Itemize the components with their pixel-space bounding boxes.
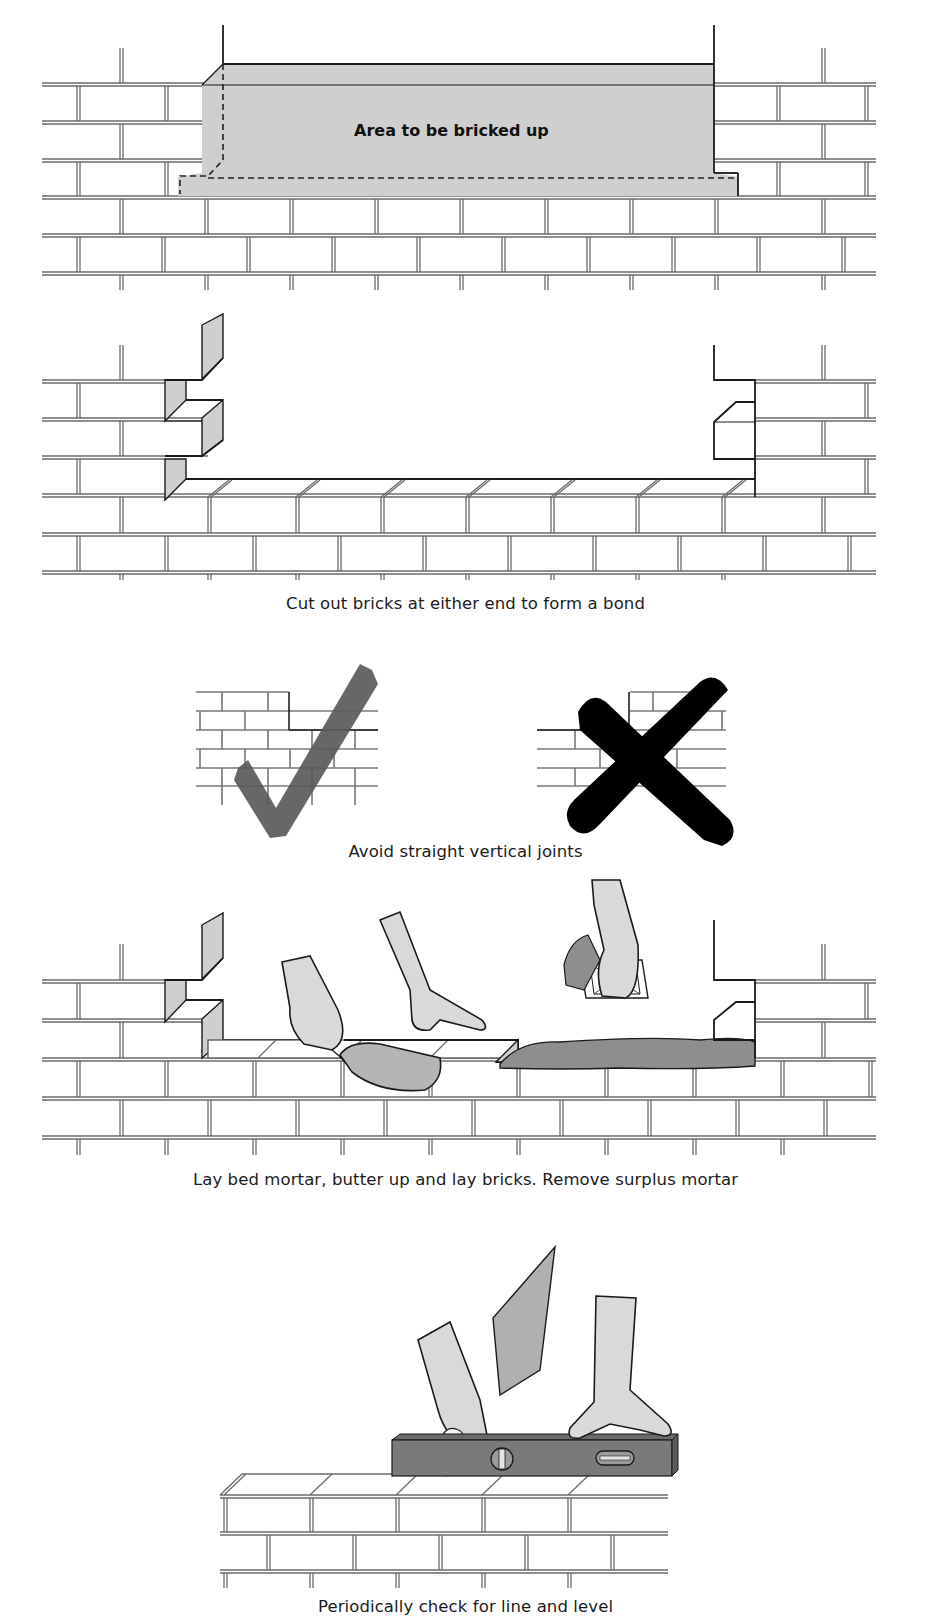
spirit-level-illustration (0, 1200, 931, 1618)
right-toothing (714, 920, 755, 1058)
toothed-wall-opening (0, 300, 931, 590)
cross-icon (567, 678, 734, 847)
step-3-caption: Avoid straight vertical joints (0, 842, 931, 861)
area-to-brick-up-shading (178, 25, 738, 196)
left-toothing-cutout (165, 314, 755, 500)
step-3-bond-comparison: Avoid straight vertical joints (0, 630, 931, 865)
hand-tapping-brick (380, 912, 486, 1030)
brick-courses (220, 1474, 668, 1588)
step-4-laying-illustration: Lay bed mortar, butter up and lay bricks… (0, 870, 931, 1180)
mortar-bed (500, 1038, 755, 1069)
step-4-caption: Lay bed mortar, butter up and lay bricks… (0, 1170, 931, 1189)
step-1-opening-illustration: Area to be bricked up (0, 0, 931, 300)
step-2-toothing-illustration: Cut out bricks at either end to form a b… (0, 300, 931, 590)
laying-bricks-illustration (0, 870, 931, 1180)
bond-comparison-illustration (0, 630, 931, 865)
step-2-caption: Cut out bricks at either end to form a b… (0, 594, 931, 613)
brick-wall-with-opening (0, 0, 931, 300)
right-toothing-cutout (714, 345, 755, 497)
right-hand (569, 1296, 671, 1438)
left-toothing (165, 913, 300, 1058)
step-5-caption: Periodically check for line and level (0, 1597, 931, 1616)
tick-icon (234, 664, 378, 838)
trowel-blade (493, 1247, 555, 1395)
spirit-level (392, 1434, 678, 1476)
step-5-level-check: Periodically check for line and level (0, 1200, 931, 1618)
hand-buttering-brick (564, 880, 648, 998)
area-label: Area to be bricked up (354, 121, 549, 140)
